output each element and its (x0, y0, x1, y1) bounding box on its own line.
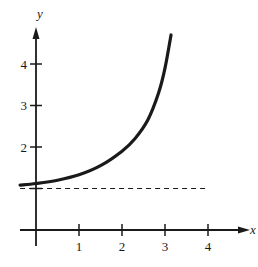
x-axis-arrow-icon (238, 227, 250, 234)
y-tick-label: 3 (21, 98, 28, 113)
x-tick-label: 4 (205, 239, 212, 254)
x-tick-label: 1 (76, 239, 83, 254)
y-tick-label: 4 (21, 57, 28, 72)
x-axis-label: x (249, 222, 256, 237)
y-tick-label: 2 (21, 140, 28, 155)
exponential-curve (20, 35, 171, 185)
y-axis-arrow-icon (33, 27, 40, 39)
y-axis-label: y (35, 6, 43, 21)
x-tick-label: 3 (162, 239, 169, 254)
x-tick-label: 2 (119, 239, 126, 254)
series (20, 35, 208, 189)
labels: 1234234xy (21, 6, 257, 254)
chart: 1234234xy (0, 0, 258, 267)
